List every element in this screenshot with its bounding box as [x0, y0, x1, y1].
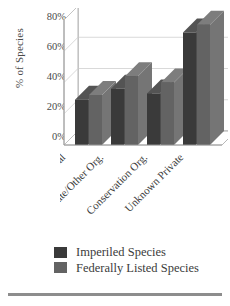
y-axis-title: % of Species [13, 13, 25, 103]
legend-label-federally-listed: Federally Listed Species [76, 262, 199, 275]
legend-item-federally-listed: Federally Listed Species [0, 262, 230, 275]
legend-label-imperiled: Imperiled Species [76, 246, 166, 259]
legend-item-imperiled: Imperiled Species [0, 246, 230, 259]
legend-swatch-federally-listed [54, 262, 67, 273]
chart-legend: Imperiled Species Federally Listed Speci… [0, 246, 230, 277]
legend-swatch-imperiled [54, 247, 67, 258]
bar-chart-canvas: IndividualCorporate/Other Org.Conservati… [60, 8, 228, 220]
footer-divider-rule [8, 293, 222, 296]
chart-figure: % of Species 0% 20% 40% 60% 80% Individu… [0, 0, 230, 306]
plot-area: % of Species 0% 20% 40% 60% 80% Individu… [0, 0, 230, 150]
